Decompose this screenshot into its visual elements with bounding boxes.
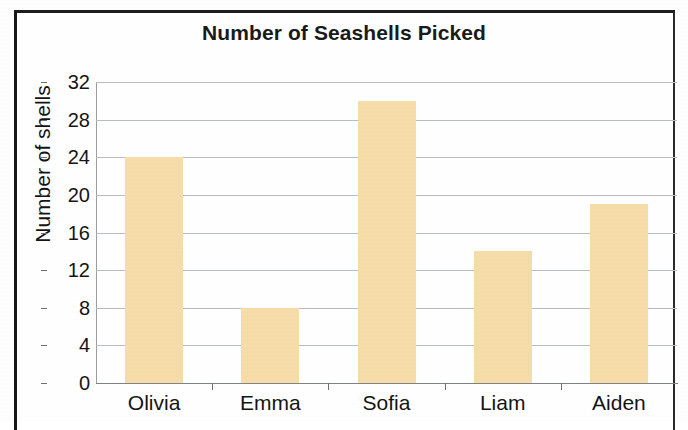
gridline — [96, 82, 677, 83]
y-axis-tick-mark — [41, 157, 47, 158]
y-axis-tick-mark — [41, 82, 47, 83]
y-axis-tick-label: 8 — [50, 298, 90, 318]
y-axis-tick-label: 20 — [50, 185, 90, 205]
x-axis-tick-mark — [328, 383, 329, 390]
plot-area — [96, 82, 677, 383]
bar — [474, 251, 532, 383]
y-axis-tick-label: 0 — [50, 373, 90, 393]
y-axis-tick-mark — [41, 308, 47, 309]
y-axis-tick-mark — [41, 345, 47, 346]
chart-title: Number of Seashells Picked — [0, 21, 688, 45]
x-axis-tick-label: Aiden — [561, 390, 677, 415]
x-axis-tick-mark — [212, 383, 213, 390]
y-axis-tick-label: 24 — [50, 147, 90, 167]
x-axis-tick-mark — [445, 383, 446, 390]
y-axis-tick-label: 4 — [50, 335, 90, 355]
x-axis-tick-label: Sofia — [328, 390, 444, 415]
y-axis-tick-mark — [41, 233, 47, 234]
y-axis-tick-label: 28 — [50, 110, 90, 130]
x-axis-tick-label: Emma — [212, 390, 328, 415]
x-axis-tick-label: Liam — [445, 390, 561, 415]
y-axis-tick-mark — [41, 270, 47, 271]
bar — [358, 101, 416, 383]
x-axis-tick-labels: OliviaEmmaSofiaLiamAiden — [96, 390, 677, 421]
y-axis-tick-label: 32 — [50, 72, 90, 92]
x-axis-tick-label: Olivia — [96, 390, 212, 415]
bar — [125, 157, 183, 383]
y-axis-tick-labels: 048121620242832 — [46, 82, 90, 383]
y-axis-tick-mark — [41, 120, 47, 121]
y-axis-tick-label: 16 — [50, 223, 90, 243]
x-axis-line — [96, 383, 678, 384]
x-axis-tick-mark — [561, 383, 562, 390]
y-axis-tick-mark — [41, 383, 47, 384]
y-axis-tick-label: 12 — [50, 260, 90, 280]
bar — [241, 308, 299, 383]
bar — [590, 204, 648, 383]
y-axis-tick-mark — [41, 195, 47, 196]
